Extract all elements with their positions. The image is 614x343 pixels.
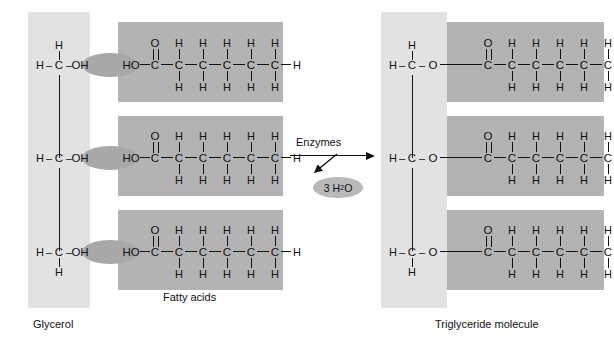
pfa-3-lower-bond-6 (608, 258, 609, 268)
pfa-1-lower-hydrogen-4: H (556, 81, 564, 93)
fa-2-carbonyl-oxygen: O (151, 130, 160, 142)
fa-2-upper-bond-5 (251, 142, 252, 152)
pfa-1-lower-hydrogen-6: H (604, 81, 612, 93)
pfa-1-upper-bond-4 (560, 49, 561, 59)
fa-3-lower-hydrogen-4: H (223, 268, 231, 280)
pfa-1-lower-bond-2 (512, 71, 513, 81)
prow-2-ester-linkage-bond (440, 157, 482, 158)
fa-1-upper-bond-6 (275, 49, 276, 59)
fa-2-carbon-1: C (151, 152, 159, 164)
diagram-canvas: H–C–OHHH–C–OHH–C–OHHHOCOCHHCHHCHHCHHCHHH… (0, 0, 614, 343)
fa-2-chain-bond-4 (233, 157, 245, 158)
byproduct-count: 3 (324, 182, 330, 194)
prow-2-ester-oxygen: O (429, 152, 438, 164)
pfa-2-carbon-4: C (556, 152, 564, 164)
fa-2-chain-bond-1 (161, 157, 173, 158)
pfa-3-upper-hydrogen-2: H (508, 224, 516, 236)
pfa-2-lower-bond-4 (560, 164, 561, 174)
prow-1-top-bond (412, 51, 413, 60)
fa-1-lower-bond-5 (251, 71, 252, 81)
fa-2-lower-bond-2 (179, 164, 180, 174)
fa-1-carbon-4: C (223, 59, 231, 71)
prow-1-left-hydrogen: H (389, 59, 397, 71)
pfa-3-upper-hydrogen-5: H (580, 224, 588, 236)
fa-2-carbon-6: C (271, 152, 279, 164)
caption-triglyceride: Triglyceride molecule (435, 318, 539, 330)
pfa-3-lower-bond-2 (512, 258, 513, 268)
pfa-1-upper-bond-5 (584, 49, 585, 59)
pfa-1-carbonyl-bond-a (486, 49, 487, 60)
prow-2-carbon: C (408, 152, 416, 164)
fa-1-upper-bond-3 (203, 49, 204, 59)
fa-1-carbonyl-bond-b (158, 49, 159, 60)
fa-2-lower-hydrogen-5: H (247, 174, 255, 186)
fa-2-lower-bond-3 (203, 164, 204, 174)
row-1-left-hydrogen: H (36, 59, 44, 71)
pfa-3-upper-hydrogen-3: H (532, 224, 540, 236)
pfa-3-carbonyl-bond-b (491, 236, 492, 247)
pfa-1-lower-bond-6 (608, 71, 609, 81)
fa-1-lower-bond-6 (275, 71, 276, 81)
pfa-1-lower-hydrogen-2: H (508, 81, 516, 93)
pfa-1-lower-hydrogen-3: H (532, 81, 540, 93)
pfa-3-carbon-3: C (532, 246, 540, 258)
prow-3-carbon: C (408, 246, 416, 258)
pfa-3-upper-bond-5 (584, 236, 585, 246)
row-3-bond-dash-1: – (46, 246, 52, 258)
fa-3-chain-bond-4 (233, 251, 245, 252)
enzymes-label: Enzymes (296, 136, 341, 148)
pfa-3-chain-bond-1 (494, 251, 506, 252)
row-2-left-hydrogen: H (36, 152, 44, 164)
fa-1-upper-hydrogen-3: H (199, 37, 207, 49)
pfa-2-upper-hydrogen-5: H (580, 130, 588, 142)
fa-1-chain-bond-1 (161, 64, 173, 65)
pfa-2-lower-hydrogen-5: H (580, 174, 588, 186)
pfa-1-carbon-2: C (508, 59, 516, 71)
fa-2-upper-bond-6 (275, 142, 276, 152)
fa-2-lower-hydrogen-6: H (271, 174, 279, 186)
pfa-1-carbonyl-oxygen: O (484, 37, 493, 49)
row-3-hydroxyl: OH (71, 246, 88, 258)
prow-1-bond-dash-1: – (399, 59, 405, 71)
fa-3-terminal-hydrogen: H (293, 246, 301, 258)
fa-3-lower-hydrogen-3: H (199, 268, 207, 280)
fa-3-carbon-3: C (199, 246, 207, 258)
pfa-2-carbonyl-bond-a (486, 142, 487, 153)
reaction-arrow-head (366, 152, 375, 160)
byproduct-hydrogen: H (332, 182, 340, 194)
fa-3-lower-bond-4 (227, 258, 228, 268)
pfa-2-chain-bond-1 (494, 157, 506, 158)
fa-3-carbonyl-bond-b (158, 236, 159, 247)
pfa-2-chain-bond-2 (518, 157, 530, 158)
byproduct-arrow-icon (303, 152, 351, 180)
fa-1-terminal-bond (281, 64, 291, 65)
fa-2-upper-hydrogen-4: H (223, 130, 231, 142)
fa-3-lower-hydrogen-5: H (247, 268, 255, 280)
fa-3-chain-bond-5 (257, 251, 269, 252)
fa-3-lower-bond-6 (275, 258, 276, 268)
fa-3-chain-bond-2 (185, 251, 197, 252)
row-2-hydroxyl: OH (71, 152, 88, 164)
pfa-2-upper-hydrogen-4: H (556, 130, 564, 142)
prow-1-top-hydrogen: H (408, 39, 416, 51)
fa-3-upper-hydrogen-5: H (247, 224, 255, 236)
fa-1-upper-bond-5 (251, 49, 252, 59)
pfa-2-lower-hydrogen-4: H (556, 174, 564, 186)
prow-2-bond-dash-2: – (419, 152, 425, 164)
fa-3-upper-hydrogen-3: H (199, 224, 207, 236)
fa-1-lower-hydrogen-4: H (223, 81, 231, 93)
fa-3-upper-bond-6 (275, 236, 276, 246)
pfa-2-carbon-6: C (604, 152, 612, 164)
fa-3-upper-bond-2 (179, 236, 180, 246)
fa-3-carbonyl-bond-a (153, 236, 154, 247)
pfa-3-carbon-4: C (556, 246, 564, 258)
fa-3-upper-bond-3 (203, 236, 204, 246)
fa-3-carbon-5: C (247, 246, 255, 258)
fa-2-carbon-2: C (175, 152, 183, 164)
prow-3-left-hydrogen: H (389, 246, 397, 258)
pfa-3-upper-bond-6 (608, 236, 609, 246)
prow-3-ester-linkage-bond (440, 251, 482, 252)
prow-3-bottom-bond (412, 258, 413, 267)
pfa-2-upper-bond-5 (584, 142, 585, 152)
fa-3-upper-hydrogen-6: H (271, 224, 279, 236)
